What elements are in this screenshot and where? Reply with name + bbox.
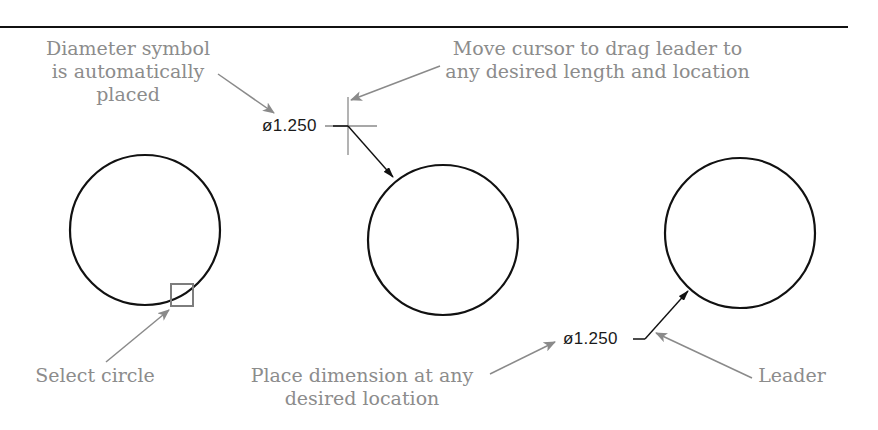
- callout-line: any desired length and location: [440, 60, 755, 83]
- leader-placed[interactable]: [633, 291, 688, 339]
- callout-move-cursor: Move cursor to drag leader to any desire…: [440, 37, 755, 83]
- circle-drag[interactable]: [368, 165, 518, 315]
- circle-placed[interactable]: [665, 158, 815, 308]
- callout-line: desired location: [238, 387, 486, 410]
- callout-diameter-symbol: Diameter symbol is automatically placed: [38, 37, 218, 106]
- callout-line: Move cursor to drag leader to: [440, 37, 755, 60]
- arrow-move-cursor: [351, 66, 440, 100]
- circle-select[interactable]: [70, 155, 220, 305]
- arrow-place-dimension: [490, 342, 555, 374]
- callout-line: Place dimension at any: [238, 364, 486, 387]
- callout-line: is automatically: [38, 60, 218, 83]
- dimension-text-placed[interactable]: ø1.250: [563, 330, 618, 348]
- arrow-leader: [656, 333, 752, 378]
- callout-place-dimension: Place dimension at any desired location: [238, 364, 486, 410]
- callout-line: Leader: [757, 364, 827, 387]
- callout-select-circle: Select circle: [30, 364, 160, 387]
- diagram-canvas: ø1.250 ø1.250 Diameter symbol is automat…: [0, 0, 878, 430]
- callout-line: Select circle: [30, 364, 160, 387]
- callout-line: Diameter symbol: [38, 37, 218, 60]
- callout-line: placed: [38, 83, 218, 106]
- dimension-text-dragging[interactable]: ø1.250: [262, 117, 317, 135]
- callout-leader: Leader: [757, 364, 827, 387]
- arrow-select-circle: [106, 310, 169, 362]
- leader-dragging[interactable]: [333, 126, 393, 177]
- arrow-diameter-symbol: [218, 74, 274, 113]
- crosshair-cursor-icon[interactable]: [325, 97, 377, 155]
